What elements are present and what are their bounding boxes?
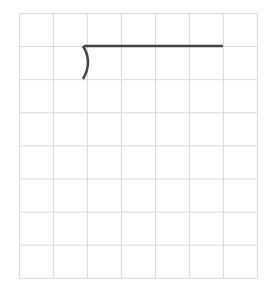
drawing-canvas[interactable] [0, 0, 268, 289]
grid-lines [19, 13, 258, 278]
drawn-strokes [83, 46, 223, 79]
